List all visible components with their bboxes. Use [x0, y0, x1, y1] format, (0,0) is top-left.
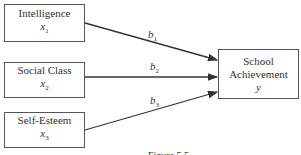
predictor-label: Social Class: [17, 64, 71, 77]
coefficient-b3: b3: [150, 94, 159, 109]
predictor-intelligence-box: Intelligence x1: [4, 4, 85, 42]
coefficient-b2: b2: [150, 60, 159, 75]
outcome-school-achievement-box: School Achievement y: [218, 49, 299, 99]
predictor-label: Intelligence: [19, 7, 71, 20]
predictor-social-class-box: Social Class x2: [4, 62, 85, 98]
predictor-variable: x2: [40, 77, 48, 95]
predictor-self-esteem-box: Self-Esteem x3: [4, 112, 85, 148]
outcome-variable: y: [256, 81, 261, 94]
predictor-variable: x3: [40, 127, 48, 145]
predictor-variable: x1: [40, 20, 48, 38]
outcome-label-line2: Achievement: [229, 68, 288, 81]
coefficient-b1: b1: [148, 28, 157, 43]
outcome-label-line1: School: [243, 55, 274, 68]
figure-caption: Figure 5.5: [148, 150, 189, 155]
predictor-label: Self-Esteem: [18, 114, 72, 127]
